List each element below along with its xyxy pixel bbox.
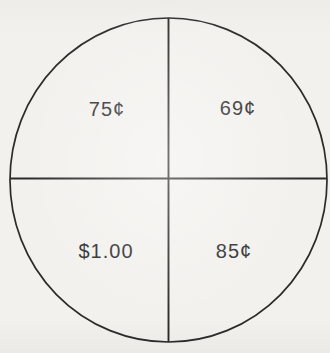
spinner-diagram <box>0 0 330 353</box>
scanned-figure-page: 75¢ 69¢ $1.00 85¢ <box>0 0 330 353</box>
quadrant-label-bottom-left: $1.00 <box>78 240 133 263</box>
quadrant-label-top-left: 75¢ <box>89 98 125 121</box>
quadrant-label-bottom-right: 85¢ <box>216 240 252 263</box>
quadrant-label-top-right: 69¢ <box>220 97 256 120</box>
